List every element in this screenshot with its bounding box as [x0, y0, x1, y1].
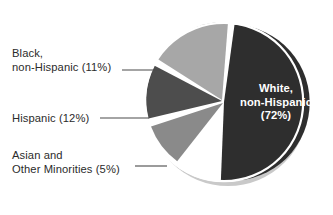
slice-label-black-line2: non-Hispanic (11%) — [12, 60, 111, 74]
slice-label-black-line1: Black, — [12, 46, 111, 60]
slice-label-asian-line2: Other Minorities (5%) — [12, 162, 120, 176]
slice-label-hispanic: Hispanic (12%) — [12, 111, 89, 125]
slice-label-asian-line1: Asian and — [12, 148, 120, 162]
slice-label-asian-other-minorities: Asian and Other Minorities (5%) — [12, 148, 120, 176]
slice-label-black-non-hispanic: Black, non-Hispanic (11%) — [12, 46, 111, 74]
pie-chart: Black, non-Hispanic (11%) Hispanic (12%)… — [0, 0, 333, 215]
slice-label-hispanic-line1: Hispanic (12%) — [12, 111, 89, 125]
slice-label-white-non-hispanic: White, non-Hispanic (72%) — [228, 82, 324, 123]
slice-label-white-line2: non-Hispanic — [228, 96, 324, 110]
slice-label-white-line3: (72%) — [228, 109, 324, 123]
slice-label-white-line1: White, — [228, 82, 324, 96]
